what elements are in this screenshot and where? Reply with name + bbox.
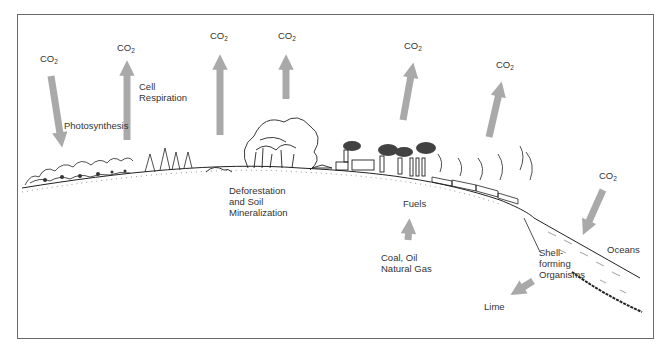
co2-label-photosynthesis: CO2	[40, 53, 58, 65]
label-fossil-line1: Coal, Oil	[381, 252, 417, 263]
label-cell-respiration-line2: Respiration	[139, 92, 187, 103]
forest-vegetation	[25, 148, 192, 185]
label-lime: Lime	[484, 301, 505, 312]
arrow-fossil-to-fuels	[408, 226, 409, 240]
factories	[336, 141, 436, 176]
carbon-cycle-illustration	[0, 0, 670, 354]
label-oceans: Oceans	[607, 244, 640, 255]
co2-label-respiration: CO2	[117, 42, 135, 54]
co2-label-industry: CO2	[404, 40, 422, 52]
label-fossil-line2: Natural Gas	[381, 263, 432, 274]
arrow-photosynthesis	[51, 76, 61, 140]
vehicles-exhaust	[432, 146, 532, 204]
burning-forest	[206, 118, 332, 172]
co2-label-ocean: CO2	[599, 170, 617, 182]
arrow-vehicles	[489, 89, 500, 137]
label-shell-line1: Shell-	[539, 247, 563, 258]
label-shell-line2: forming	[539, 258, 571, 269]
earth-surface	[22, 166, 642, 312]
co2-label-deforestation-1: CO2	[210, 30, 228, 42]
label-shell-line3: Organisms	[539, 269, 585, 280]
co2-flow-arrows	[51, 62, 603, 291]
co2-label-vehicles: CO2	[496, 59, 514, 71]
label-deforestation-line1: Deforestation	[229, 185, 286, 196]
label-fuels: Fuels	[403, 198, 426, 209]
arrow-ocean-uptake	[586, 190, 603, 228]
arrow-industry	[403, 70, 412, 120]
co2-label-deforestation-2: CO2	[278, 30, 296, 42]
arrow-shell-to-lime	[517, 281, 533, 291]
label-deforestation-line3: Mineralization	[229, 207, 288, 218]
label-deforestation-line2: and Soil	[229, 196, 263, 207]
label-cell-respiration-line1: Cell	[139, 81, 155, 92]
label-photosynthesis: Photosynthesis	[64, 120, 128, 131]
